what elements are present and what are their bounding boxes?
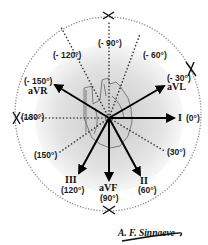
label-III-angle: (120°) [61, 185, 84, 195]
label-aVR: aVR [28, 85, 48, 96]
label-minus-90: (- 90°) [98, 38, 122, 48]
label-I: I [178, 112, 182, 123]
label-150: (150°) [34, 150, 57, 160]
label-aVF: aVF [99, 182, 117, 193]
label-III: III [65, 174, 77, 185]
label-II-angle: (60°) [138, 185, 157, 195]
label-aVF-angle: (90°) [100, 193, 119, 203]
label-aVL: aVL [167, 81, 186, 92]
label-minus-60: (- 60°) [143, 50, 167, 60]
label-minus-120: (- 120°) [53, 50, 82, 60]
label-30: (30°) [167, 147, 186, 157]
cross-mark-top [103, 12, 114, 19]
label-180: (180°) [21, 112, 44, 122]
cross-mark-bottom [103, 206, 115, 214]
hexaxial-diagram: (- 120°) (- 90°) (- 60°) (180°) (150°) (… [0, 0, 208, 245]
label-I-angle: (0°) [186, 113, 200, 123]
cross-mark-left [13, 112, 20, 124]
